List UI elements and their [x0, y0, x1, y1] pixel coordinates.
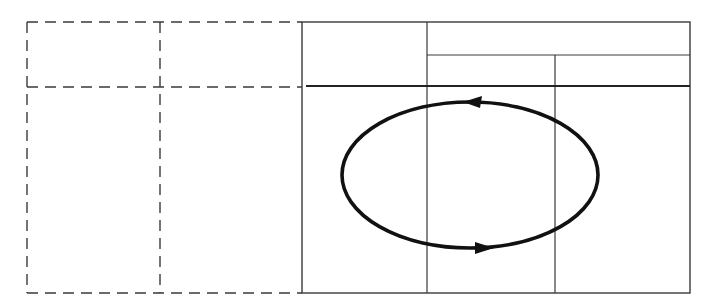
diagram-canvas: [0, 0, 716, 305]
dashed-region: [27, 22, 302, 293]
table-grid: [302, 22, 690, 293]
top-arrow-left-icon: [463, 96, 482, 108]
bottom-arrow-right-icon: [475, 242, 494, 254]
cycle: [342, 96, 598, 254]
table-border: [302, 22, 690, 293]
cycle-ellipse: [342, 102, 598, 248]
